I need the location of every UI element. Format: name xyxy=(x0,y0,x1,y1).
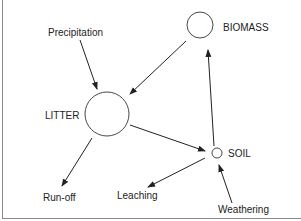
litter-node-circle xyxy=(85,92,129,136)
soil-node-circle xyxy=(212,148,222,158)
litter-label: LITTER xyxy=(45,110,79,121)
runoff-label: Run-off xyxy=(43,192,76,203)
leaching-label: Leaching xyxy=(117,190,158,201)
arrow-soil-to-biomass xyxy=(208,50,214,146)
soil-label: SOIL xyxy=(228,148,251,159)
arrow-litter-to-soil xyxy=(130,125,205,151)
arrow-litter-to-runoff xyxy=(62,138,92,186)
biomass-label: BIOMASS xyxy=(223,22,269,33)
arrow-precipitation-to-litter xyxy=(80,40,97,89)
biomass-node-circle xyxy=(187,12,213,38)
arrow-weathering-to-soil xyxy=(219,165,232,203)
precipitation-label: Precipitation xyxy=(48,27,103,38)
arrow-biomass-to-litter xyxy=(130,41,186,94)
arrow-soil-to-leaching xyxy=(148,158,205,187)
nutrient-cycle-diagram: Precipitation BIOMASS LITTER SOIL Run-of… xyxy=(0,0,301,221)
weathering-label: Weathering xyxy=(218,204,269,215)
